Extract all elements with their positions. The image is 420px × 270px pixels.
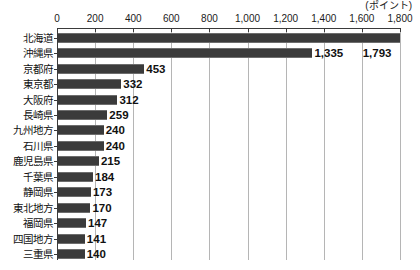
bar-value-label: 141: [86, 233, 106, 245]
bar: [58, 187, 91, 197]
bar: [58, 79, 121, 89]
bar-value-label: 240: [105, 124, 125, 136]
category-label: 福岡県: [0, 217, 53, 229]
bar-row: 東北地方170: [57, 200, 400, 215]
bar-fill: [58, 110, 107, 120]
category-label: 九州地方: [0, 124, 53, 136]
y-tick-mark: [54, 177, 57, 178]
category-label: 四国地方: [0, 233, 53, 245]
bar: [58, 218, 86, 228]
category-label: 大阪府: [0, 94, 53, 106]
bar-fill: [58, 64, 144, 74]
bar-value-label: 312: [118, 94, 138, 106]
bar: [58, 156, 99, 166]
bar-value-label: 240: [105, 140, 125, 152]
y-tick-mark: [54, 239, 57, 240]
y-tick-mark: [54, 223, 57, 224]
x-tick-label: 200: [87, 13, 104, 25]
bar-fill: [58, 79, 121, 89]
category-label: 東北地方: [0, 202, 53, 214]
category-label: 長崎県: [0, 109, 53, 121]
bar: [58, 234, 85, 244]
bar-fill: [58, 218, 86, 228]
bar-value-label: 140: [86, 248, 106, 260]
bar-row: 四国地方141: [57, 231, 400, 246]
bar-row: 沖縄県1,335: [57, 45, 400, 60]
bar: [58, 249, 85, 259]
x-tick-label: 1,400: [311, 13, 336, 25]
bar-row: 九州地方240: [57, 123, 400, 138]
category-label: 鹿児島県: [0, 155, 53, 167]
category-label: 千葉県: [0, 171, 53, 183]
bar-fill: [58, 48, 312, 58]
bar-value-label: 184: [94, 171, 114, 183]
bar: [58, 64, 144, 74]
y-tick-mark: [54, 100, 57, 101]
category-label: 京都府: [0, 63, 53, 75]
bar-fill: [58, 141, 104, 151]
bar-value-label: 453: [145, 63, 165, 75]
bar-fill: [58, 156, 99, 166]
bar-fill: [58, 187, 91, 197]
y-tick-mark: [54, 130, 57, 131]
x-axis-tick-labels: 02004006008001,0001,2001,4001,6001,800: [0, 13, 420, 26]
x-tick-label: 1,200: [273, 13, 298, 25]
x-tick-mark: [400, 28, 401, 32]
x-tick-label: 800: [201, 13, 218, 25]
x-tick-label: 1,600: [349, 13, 374, 25]
bar-fill: [58, 95, 117, 105]
bar: [58, 141, 104, 151]
bar-fill: [58, 125, 104, 135]
bar-fill: [58, 172, 93, 182]
bar-value-label: 170: [91, 202, 111, 214]
y-tick-mark: [54, 208, 57, 209]
bar: [58, 48, 312, 58]
bar-row: 京都府453: [57, 61, 400, 76]
bar-value-label: 173: [92, 186, 112, 198]
category-label: 静岡県: [0, 186, 53, 198]
category-label: 北海道: [0, 32, 53, 44]
y-tick-mark: [54, 69, 57, 70]
bar-row: 鹿児島県215: [57, 154, 400, 169]
bar-fill: [58, 203, 90, 213]
bar-row: 北海道: [57, 30, 400, 45]
bar-chart: (ポイント) 02004006008001,0001,2001,4001,600…: [0, 0, 420, 270]
category-label: 三重県: [0, 248, 53, 260]
bar: [58, 203, 90, 213]
bar-row: 大阪府312: [57, 92, 400, 107]
y-tick-mark: [54, 146, 57, 147]
gridline: [400, 28, 401, 260]
category-label: 石川県: [0, 140, 53, 152]
bar-fill: [58, 33, 400, 43]
y-tick-mark: [54, 53, 57, 54]
bar-row: 千葉県184: [57, 169, 400, 184]
x-tick-label: 400: [125, 13, 142, 25]
bar-row: 静岡県173: [57, 185, 400, 200]
bar-row: 三重県140: [57, 246, 400, 261]
bar: [58, 33, 400, 43]
bar: [58, 125, 104, 135]
bar-value-label: 147: [87, 217, 107, 229]
y-tick-mark: [54, 84, 57, 85]
bar-value-label: 259: [108, 109, 128, 121]
unit-label: (ポイント): [365, 0, 412, 12]
y-tick-mark: [54, 161, 57, 162]
bar-row: 福岡県147: [57, 215, 400, 230]
category-label: 東京都: [0, 78, 53, 90]
bar-row: 東京都332: [57, 76, 400, 91]
plot-area: 北海道沖縄県1,335京都府453東京都332大阪府312長崎県259九州地方2…: [57, 28, 400, 260]
bar-value-label: 1,335: [313, 47, 343, 59]
category-label: 沖縄県: [0, 47, 53, 59]
x-tick-label: 600: [163, 13, 180, 25]
bar-value-label: 1,793: [363, 47, 392, 59]
x-axis-line: [57, 28, 400, 29]
y-tick-mark: [54, 254, 57, 255]
bar-value-label: 332: [122, 78, 142, 90]
y-tick-mark: [54, 38, 57, 39]
bar: [58, 172, 93, 182]
y-tick-mark: [54, 115, 57, 116]
bar: [58, 95, 117, 105]
bar-fill: [58, 234, 85, 244]
x-tick-label: 0: [54, 13, 60, 25]
x-tick-label: 1,800: [387, 13, 412, 25]
